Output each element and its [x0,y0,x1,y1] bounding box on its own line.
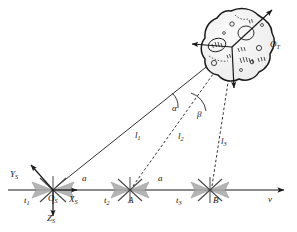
label-range-3: l3 [221,137,227,146]
label-time-1: t1 [24,196,30,205]
label-velocity: v [268,195,272,204]
label-station-a: A [128,196,134,205]
label-station-b: B [213,196,219,205]
label-angle-beta: β [197,110,201,119]
label-origin: OS [48,194,58,203]
label-axis-z: ZS [47,214,55,223]
spacecraft-t3 [191,177,229,203]
label-time-3: t3 [176,196,182,205]
label-target-object: OT [270,40,280,49]
label-angle-alpha: α [172,104,177,113]
figure-canvas: OT YS ZS XS OS t1 t2 t3 A B a a l1 l2 l3… [0,0,297,232]
label-baseline-2: a [158,174,163,183]
diagram-svg [0,0,297,232]
label-axis-x: XS [69,195,78,204]
line-of-sight-1 [56,48,230,187]
label-baseline-1: a [82,174,87,183]
target-object-body [201,8,274,81]
label-time-2: t2 [104,196,110,205]
label-range-1: l1 [135,131,141,140]
label-range-2: l2 [178,132,184,141]
label-axis-y: YS [10,170,18,179]
